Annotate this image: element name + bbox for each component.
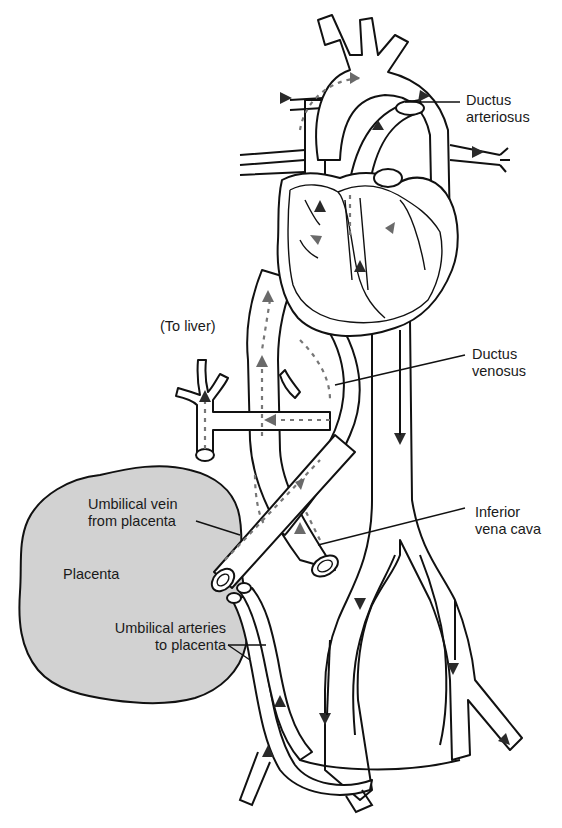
label-umbilical-arteries: Umbilical arteries to placenta [66,620,226,654]
label-ductus-arteriosus: Ductus arteriosus [466,92,530,126]
label-placenta: Placenta [63,566,119,583]
label-umbilical-vein: Umbilical vein from placenta [88,496,177,530]
heart [278,173,458,336]
label-to-liver: (To liver) [160,318,216,335]
fetal-circulation-diagram: Ductus arteriosus (To liver) Ductus veno… [0,0,562,828]
label-inferior-vena-cava: Inferior vena cava [475,504,541,538]
label-ductus-venosus: Ductus venosus [472,346,526,380]
